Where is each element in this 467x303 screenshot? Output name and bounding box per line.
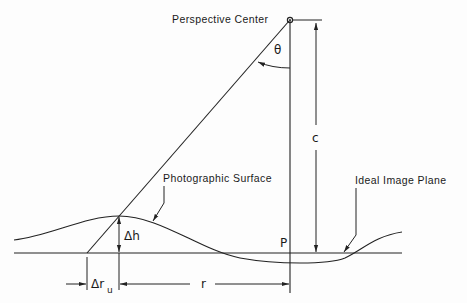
- photographic-surface-label: Photographic Surface: [163, 172, 272, 184]
- perspective-center-label: Perspective Center: [172, 13, 269, 25]
- theta-label: θ: [274, 43, 281, 57]
- image-ray: [87, 21, 289, 253]
- c-label: c: [312, 131, 319, 145]
- p-label: P: [280, 236, 287, 250]
- ideal-image-plane-leader: [344, 188, 356, 252]
- delta-r-subscript: u: [107, 285, 113, 295]
- photographic-surface-leader: [153, 186, 164, 221]
- diagram-canvas: Perspective Center c θ Photographic Surf…: [0, 0, 467, 303]
- theta-arc: [258, 62, 290, 68]
- delta-r-label: Δr: [91, 277, 104, 291]
- photographic-surface-curve: [14, 216, 402, 263]
- ideal-image-plane-label: Ideal Image Plane: [355, 174, 446, 186]
- r-label: r: [201, 277, 206, 291]
- diagram-svg: Perspective Center c θ Photographic Surf…: [0, 0, 467, 303]
- delta-h-label: Δh: [124, 229, 140, 243]
